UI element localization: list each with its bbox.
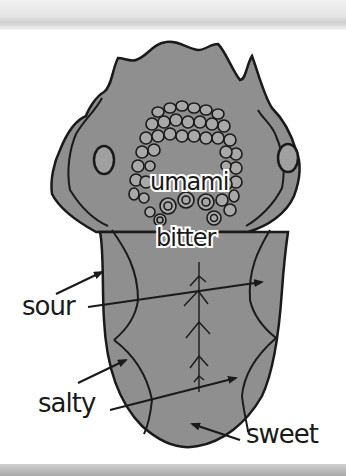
- tongue-diagram: umami bitter sour salty sweet: [0, 0, 346, 476]
- bottom-border-band: [0, 464, 346, 476]
- label-sweet: sweet: [246, 419, 319, 449]
- label-bitter: bitter: [156, 224, 216, 252]
- label-umami: umami: [150, 168, 228, 196]
- label-salty: salty: [38, 388, 96, 418]
- right-tonsil: [278, 144, 298, 172]
- label-sour: sour: [22, 291, 76, 321]
- tongue-body: [100, 232, 288, 447]
- left-tonsil: [94, 146, 114, 174]
